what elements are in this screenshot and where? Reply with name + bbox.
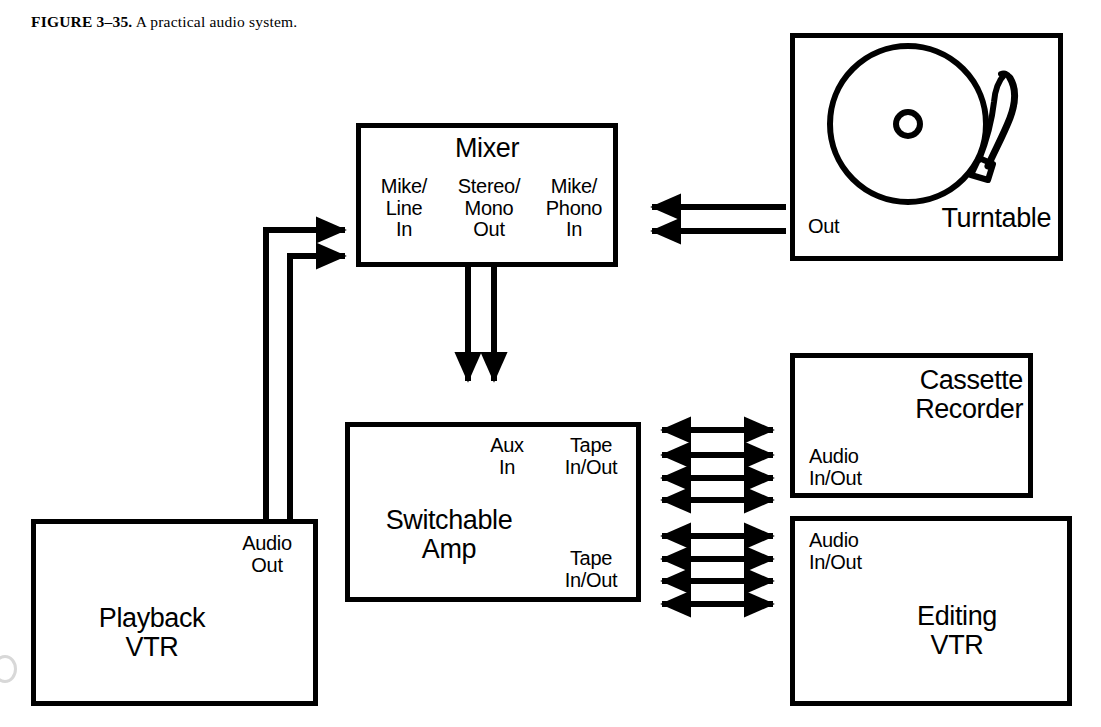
amp-title: Switchable Amp xyxy=(356,506,542,564)
connector-amp-to-cassette xyxy=(662,430,773,500)
page-edge-artifact xyxy=(0,655,17,683)
connector-mixer-to-amp xyxy=(468,265,494,381)
turntable-port-out: Out xyxy=(808,216,878,238)
amp-port-aux-in: Aux In xyxy=(466,435,548,478)
figure-caption-text: A practical audio system. xyxy=(136,13,298,30)
figure-page: FIGURE 3–35. A practical audio system. M… xyxy=(0,0,1101,727)
amp-port-tape-in-out-bottom: Tape In/Out xyxy=(550,548,632,591)
cassette-recorder-box: Cassette Recorder Audio In/Out xyxy=(790,353,1033,498)
mixer-port-stereo-mono-out: Stereo/ Mono Out xyxy=(447,176,531,241)
figure-number: FIGURE 3–35. xyxy=(31,13,132,30)
connector-playback-to-mixer xyxy=(266,230,345,521)
turntable-title: Turntable xyxy=(875,204,1051,233)
amp-port-tape-in-out-top: Tape In/Out xyxy=(550,435,632,478)
playback-vtr-title: Playback VTR xyxy=(62,604,242,662)
editing-port-audio-in-out: Audio In/Out xyxy=(809,530,919,573)
editing-vtr-box: Audio In/Out Editing VTR xyxy=(790,516,1072,706)
cassette-port-audio-in-out: Audio In/Out xyxy=(809,446,919,489)
switchable-amp-box: Aux In Tape In/Out Switchable Amp Tape I… xyxy=(345,422,641,602)
mixer-box: Mixer Mike/ Line In Stereo/ Mono Out Mik… xyxy=(356,123,618,267)
turntable-box: Out Turntable xyxy=(790,33,1063,261)
playback-port-audio-out: Audio Out xyxy=(226,533,308,576)
cassette-recorder-title: Cassette Recorder xyxy=(825,366,1023,424)
mixer-title: Mixer xyxy=(361,134,613,163)
connector-turntable-to-mixer xyxy=(652,207,786,231)
mixer-port-mike-phono-in: Mike/ Phono In xyxy=(535,176,613,241)
mixer-port-mike-line-in: Mike/ Line In xyxy=(367,176,441,241)
playback-vtr-box: Audio Out Playback VTR xyxy=(31,519,318,706)
editing-vtr-title: Editing VTR xyxy=(877,602,1037,660)
figure-caption: FIGURE 3–35. A practical audio system. xyxy=(31,13,297,31)
connector-amp-to-editing-vtr xyxy=(662,536,773,604)
